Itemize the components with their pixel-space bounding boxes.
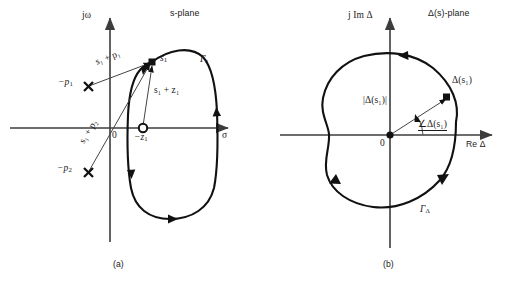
- pole1-subscript: 1: [69, 80, 73, 87]
- caption-b: (b): [383, 260, 394, 269]
- s1-subscript: 1: [164, 56, 168, 63]
- contour-b-arrow-lower-left: [329, 174, 341, 184]
- panel-b-vector-group: [386, 94, 450, 139]
- figure-container: s-plane jω σ 0 Γs s1 −p1 −p2 −z1 s₁ + p₁…: [0, 0, 511, 282]
- panel-b-angle-label: ∠Δ(s₁): [418, 120, 447, 131]
- panel-a-origin-label: 0: [112, 131, 117, 141]
- panel-a-vertical-axis-label: jω: [82, 11, 91, 21]
- panel-a-horizontal-axis-label: σ: [222, 131, 227, 141]
- marker-s1-point: [149, 59, 156, 66]
- marker-pole-p2: [84, 168, 93, 177]
- contour-label-subscript: s: [206, 57, 209, 64]
- contour-b-arrow-lower-right: [437, 174, 449, 185]
- pole2-subscript: 2: [68, 166, 72, 173]
- vector-s1-plus-z1: [143, 66, 152, 126]
- contour-a-arrow-bottom: [168, 215, 178, 224]
- marker-origin-dot: [386, 131, 393, 138]
- contour-b-arrow-top: [398, 51, 409, 60]
- contour-b-label-subscript: Δ: [426, 207, 430, 214]
- panel-b-magnitude-label: |Δ(s₁)|: [363, 96, 387, 106]
- pole1-base: −p: [58, 77, 69, 87]
- panel-a-vector-label-s1-plus-z1: s₁ + z₁: [154, 86, 179, 96]
- panel-a-vectors: [89, 63, 152, 171]
- panel-b-horizontal-axis-label: Re Δ: [466, 140, 486, 149]
- vector-s1-plus-p2: [89, 64, 150, 171]
- marker-zero-z1: [139, 124, 147, 132]
- figure-graphics: [0, 0, 511, 282]
- marker-delta-s1-point: [443, 94, 450, 101]
- contour-a-arrow-right: [213, 107, 221, 117]
- panel-a-point-s1-label: s1: [160, 54, 167, 64]
- panel-a-contour-label: Γs: [200, 55, 208, 65]
- panel-a-pole-p1-label: −p1: [58, 78, 73, 88]
- panel-b-point-label: Δ(s₁): [452, 76, 472, 86]
- panel-a-zero-z1-label: −z1: [134, 133, 148, 143]
- marker-pole-p1: [84, 82, 93, 91]
- pole2-base: −p: [57, 163, 68, 173]
- panel-b-origin-label: 0: [380, 139, 385, 149]
- zero-base: −z: [134, 132, 144, 142]
- panel-a-plane-title: s-plane: [170, 9, 200, 18]
- caption-a: (a): [113, 260, 124, 269]
- panel-b-contour-label: ΓΔ: [420, 205, 430, 215]
- zero-subscript: 1: [144, 135, 148, 142]
- panel-a-pole-p2-label: −p2: [57, 164, 72, 174]
- panel-b-vertical-axis-label: j Im Δ: [348, 11, 373, 21]
- panel-b-plane-title: Δ(s)-plane: [428, 9, 470, 18]
